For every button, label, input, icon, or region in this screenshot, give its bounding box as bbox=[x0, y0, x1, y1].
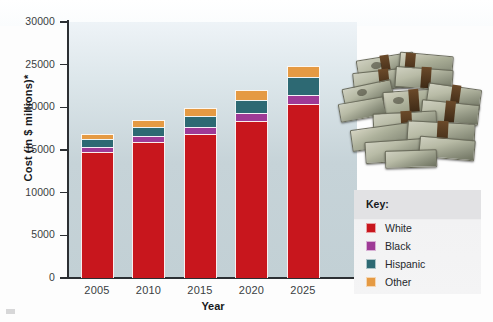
y-axis-tick bbox=[60, 192, 68, 194]
legend-swatch-black bbox=[366, 241, 376, 251]
bar-stack bbox=[132, 22, 165, 278]
bar-segment-other bbox=[235, 90, 268, 99]
legend-item: Hispanic bbox=[366, 256, 425, 272]
bar-stack bbox=[287, 22, 320, 278]
bar-segment-hispanic bbox=[81, 139, 114, 147]
bar-segment-hispanic bbox=[184, 116, 217, 127]
legend-label: Hispanic bbox=[385, 258, 425, 270]
cash-bundles-photo bbox=[333, 52, 485, 172]
bar-segment-hispanic bbox=[287, 77, 320, 94]
bar-segment-hispanic bbox=[235, 100, 268, 114]
legend-swatch-white bbox=[366, 223, 376, 233]
legend: Key: WhiteBlackHispanicOther bbox=[354, 190, 481, 294]
y-axis-title: Cost (in $ millions)* bbox=[22, 53, 34, 203]
bar-segment-other bbox=[132, 120, 165, 127]
legend-swatch-hispanic bbox=[366, 259, 376, 269]
legend-item: Black bbox=[366, 238, 411, 254]
bar-segment-white bbox=[287, 104, 320, 278]
legend-title: Key: bbox=[366, 198, 389, 210]
legend-label: Black bbox=[385, 240, 411, 252]
y-axis-tick-label: 30000 bbox=[0, 15, 55, 27]
y-axis-tick bbox=[60, 149, 68, 151]
bar-segment-white bbox=[132, 142, 165, 278]
bar-segment-other bbox=[287, 66, 320, 78]
bar-stack bbox=[235, 22, 268, 278]
bar-segment-white bbox=[235, 121, 268, 278]
bar-segment-hispanic bbox=[132, 127, 165, 136]
y-axis-tick-label: 5000 bbox=[0, 228, 55, 240]
bar-segment-black bbox=[184, 127, 217, 134]
x-axis-tick-label: 2025 bbox=[273, 284, 333, 296]
y-axis-tick bbox=[60, 21, 68, 23]
legend-label: White bbox=[385, 222, 412, 234]
chart-figure: 300002500020000150001000050000 Cost (in … bbox=[0, 0, 493, 322]
legend-item: Other bbox=[366, 274, 411, 290]
y-axis-tick bbox=[60, 107, 68, 109]
scan-edge-artifact bbox=[6, 309, 15, 314]
x-axis-title: Year bbox=[158, 300, 268, 312]
bar-segment-black bbox=[287, 95, 320, 104]
legend-swatch-other bbox=[366, 277, 376, 287]
y-axis-tick-label: 0 bbox=[0, 271, 55, 283]
y-axis-tick bbox=[60, 235, 68, 237]
legend-label: Other bbox=[385, 276, 411, 288]
bar-segment-black bbox=[235, 113, 268, 121]
y-axis-tick bbox=[60, 277, 68, 279]
bar-segment-white bbox=[81, 152, 114, 278]
y-axis-tick bbox=[60, 64, 68, 66]
bar-segment-white bbox=[184, 134, 217, 278]
bar-segment-other bbox=[184, 108, 217, 116]
bar-stack bbox=[81, 22, 114, 278]
legend-item: White bbox=[366, 220, 412, 236]
bar-stack bbox=[184, 22, 217, 278]
